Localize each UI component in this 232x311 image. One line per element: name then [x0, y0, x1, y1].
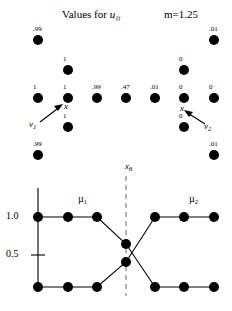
series-point [63, 212, 73, 222]
mu2-subscript: 2 [195, 198, 198, 205]
series-point [179, 282, 189, 292]
y-tick-label-1-0: 1.0 [6, 211, 19, 221]
mu1-subscript: 1 [84, 198, 87, 205]
series-point [150, 212, 160, 222]
series-point [209, 212, 219, 222]
series-point [33, 282, 43, 292]
figure-root: Values for u1j m=1.25 .99.011011.99.47.0… [0, 0, 232, 311]
y-tick-label-0-5: 0.5 [6, 249, 19, 259]
series-label-mu2: µ2 [189, 194, 198, 206]
series-point [92, 212, 102, 222]
membership-line-chart [0, 0, 232, 311]
series-point [179, 212, 189, 222]
series-point [150, 282, 160, 292]
series-point [121, 239, 131, 249]
series-point [33, 212, 43, 222]
series-point [121, 257, 131, 267]
series-point [209, 282, 219, 292]
series-point [63, 282, 73, 292]
series-point [92, 282, 102, 292]
series-label-mu1: µ1 [78, 194, 87, 206]
